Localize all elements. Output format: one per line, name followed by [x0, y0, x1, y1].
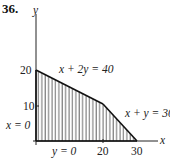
- label-x-plus-y: x + y = 30: [124, 107, 170, 120]
- x-axis-label: x: [159, 134, 166, 146]
- x-tick-label-30: 30: [131, 145, 143, 157]
- label-y-equals-0: y = 0: [51, 145, 77, 158]
- label-x-plus-2y: x + 2y = 40: [58, 63, 114, 76]
- y-tick-label-10: 10: [23, 100, 35, 112]
- y-axis-label: y: [32, 4, 39, 17]
- graph-labels: y x 20 10 20 30 x + 2y = 40 x + y = 30 x…: [0, 0, 170, 162]
- x-tick-label-20: 20: [97, 145, 109, 157]
- label-x-equals-0: x = 0: [5, 119, 31, 131]
- y-tick-label-20: 20: [20, 64, 32, 76]
